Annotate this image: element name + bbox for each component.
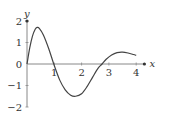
series-line xyxy=(27,27,136,96)
x-axis-arrow-icon xyxy=(143,62,146,65)
x-tick-label: 3 xyxy=(106,67,112,78)
y-tick-label: −1 xyxy=(7,80,22,91)
y-tick-label: 0 xyxy=(16,59,22,70)
y-tick-label: 1 xyxy=(16,37,22,48)
x-axis-ticks: 1234 xyxy=(51,63,139,79)
y-axis-arrow-icon xyxy=(25,19,28,22)
y-tick-label: 2 xyxy=(16,16,22,27)
x-axis-label: x xyxy=(149,58,155,69)
series-group xyxy=(27,27,136,96)
chart: 210−1−2 1234 x y xyxy=(0,0,170,117)
x-tick-label: 4 xyxy=(133,67,139,78)
y-axis-label: y xyxy=(23,8,30,19)
y-axis-ticks: 210−1−2 xyxy=(7,16,28,113)
x-tick-label: 2 xyxy=(78,67,84,78)
y-tick-label: −2 xyxy=(7,102,22,113)
